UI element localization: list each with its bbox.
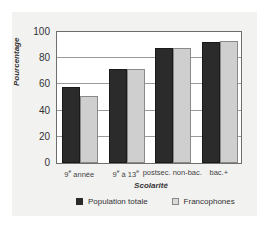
bar-population-totale [62, 87, 80, 163]
legend-swatch-dark [76, 198, 83, 205]
y-tick-label: 40 [20, 106, 50, 116]
bar-francophones [220, 41, 238, 163]
legend-swatch-light [172, 198, 179, 205]
bar-francophones [173, 48, 191, 163]
legend-label: Population totale [88, 197, 148, 206]
y-tick-label: 60 [20, 79, 50, 89]
bar-population-totale [109, 69, 127, 163]
bar-francophones [127, 69, 145, 163]
legend-label: Francophones [184, 197, 235, 206]
bar-population-totale [202, 42, 220, 163]
y-tick-label: 100 [20, 27, 50, 37]
legend: Population totale Francophones [76, 197, 259, 206]
y-tick-label: 0 [20, 158, 50, 168]
y-tick-label: 20 [20, 132, 50, 142]
bar-francophones [80, 96, 98, 163]
x-tick-label: bac.+ [189, 168, 249, 177]
legend-item-population-totale: Population totale [76, 197, 148, 206]
plot-area [56, 31, 242, 164]
bar-population-totale [155, 48, 173, 163]
legend-item-francophones: Francophones [172, 197, 235, 206]
x-axis-label: Scolarité [0, 181, 268, 190]
y-tick-label: 80 [20, 53, 50, 63]
